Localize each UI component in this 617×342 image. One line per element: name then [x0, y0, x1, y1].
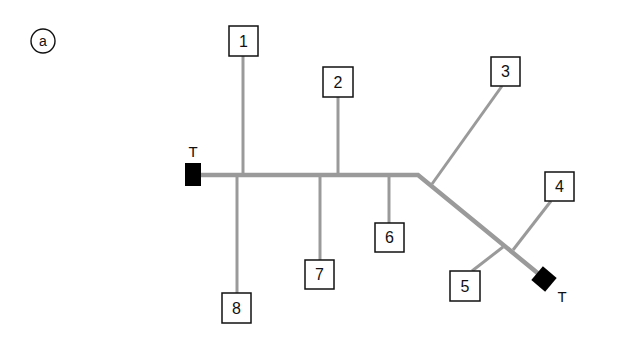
bus-topology-diagram: a T T 1 2 3 4 5	[0, 0, 617, 342]
svg-text:7: 7	[315, 266, 324, 283]
svg-text:a: a	[39, 33, 47, 49]
svg-text:5: 5	[461, 278, 470, 295]
node-2: 2	[323, 67, 353, 97]
svg-text:6: 6	[385, 229, 394, 246]
branch-line-4	[513, 201, 551, 250]
node-5: 5	[450, 271, 480, 301]
bus-cable	[200, 175, 540, 275]
node-7: 7	[305, 260, 334, 289]
svg-text:T: T	[557, 288, 566, 305]
svg-text:4: 4	[555, 178, 564, 195]
node-4: 4	[545, 172, 574, 201]
terminator-left: T	[185, 143, 201, 186]
node-6: 6	[375, 223, 404, 252]
branch-line-5	[472, 247, 503, 271]
branch-line-3	[432, 86, 502, 184]
svg-text:3: 3	[501, 63, 510, 80]
node-8: 8	[222, 293, 251, 323]
node-3: 3	[491, 57, 520, 86]
svg-text:1: 1	[239, 33, 248, 50]
node-1: 1	[229, 26, 258, 56]
panel-label: a	[31, 29, 55, 53]
svg-text:T: T	[188, 143, 197, 160]
svg-text:2: 2	[334, 74, 343, 91]
svg-text:8: 8	[232, 300, 241, 317]
